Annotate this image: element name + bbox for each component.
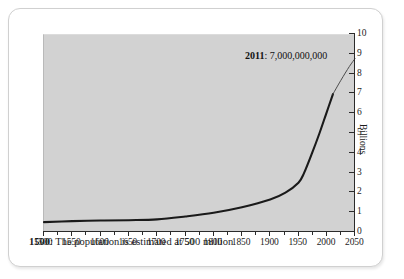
y-tick-2 bbox=[349, 191, 354, 192]
y-tick-4 bbox=[349, 152, 354, 153]
caption-text: The population is estimated at 500 milli… bbox=[55, 236, 233, 247]
x-tick-1850 bbox=[241, 231, 242, 236]
x-tick-label-1900: 1900 bbox=[260, 237, 279, 247]
y-tick-6 bbox=[349, 112, 354, 113]
population-line bbox=[44, 94, 333, 222]
y-tick-label-10: 10 bbox=[357, 28, 367, 38]
x-tick-2050 bbox=[354, 231, 355, 236]
x-tick-label-1850: 1850 bbox=[232, 237, 251, 247]
figure-card: 1500 1550 1600 1650 1700 1750 1800 1850 … bbox=[8, 8, 383, 267]
y-tick-9 bbox=[349, 53, 354, 54]
y-tick-label-7: 7 bbox=[357, 87, 362, 97]
y-tick-label-2: 2 bbox=[357, 186, 362, 196]
y-tick-label-1: 1 bbox=[357, 206, 362, 216]
y-tick-0 bbox=[349, 231, 354, 232]
y-tick-10 bbox=[349, 33, 354, 34]
x-tick-1625 bbox=[114, 231, 115, 235]
x-tick-1875 bbox=[255, 231, 256, 235]
annotation-value: 7,000,000,000 bbox=[270, 50, 328, 61]
x-tick-label-1950: 1950 bbox=[288, 237, 307, 247]
y-axis-title: Billions bbox=[358, 124, 368, 154]
x-tick-1975 bbox=[312, 231, 313, 235]
chart-caption: 1500: The population is estimated at 500… bbox=[29, 236, 233, 247]
plot-region bbox=[43, 34, 354, 231]
annotation-year: 2011 bbox=[245, 50, 264, 61]
x-tick-1725 bbox=[170, 231, 171, 235]
x-tick-1675 bbox=[142, 231, 143, 235]
y-tick-label-8: 8 bbox=[357, 68, 362, 78]
x-tick-1925 bbox=[284, 231, 285, 235]
x-tick-1525 bbox=[57, 231, 58, 235]
y-tick-8 bbox=[349, 73, 354, 74]
population-line-projection bbox=[333, 59, 355, 94]
x-tick-1575 bbox=[85, 231, 86, 235]
x-tick-1950 bbox=[298, 231, 299, 236]
x-tick-2000 bbox=[326, 231, 327, 236]
population-curve-svg bbox=[44, 35, 355, 232]
y-tick-5 bbox=[349, 132, 354, 133]
population-growth-chart: 1500 1550 1600 1650 1700 1750 1800 1850 … bbox=[35, 26, 376, 252]
y-tick-label-6: 6 bbox=[357, 107, 362, 117]
x-tick-1900 bbox=[269, 231, 270, 236]
x-tick-1825 bbox=[227, 231, 228, 235]
x-tick-2025 bbox=[340, 231, 341, 235]
caption-year: 1500 bbox=[29, 236, 50, 247]
y-tick-label-3: 3 bbox=[357, 167, 362, 177]
y-tick-7 bbox=[349, 92, 354, 93]
x-tick-1775 bbox=[199, 231, 200, 235]
y-tick-1 bbox=[349, 211, 354, 212]
y-tick-3 bbox=[349, 172, 354, 173]
x-tick-label-2000: 2000 bbox=[317, 237, 336, 247]
y-tick-label-9: 9 bbox=[357, 48, 362, 58]
x-tick-label-2050: 2050 bbox=[345, 237, 364, 247]
y-tick-label-0: 0 bbox=[357, 226, 362, 236]
chart-annotation-2011: 2011: 7,000,000,000 bbox=[245, 50, 327, 61]
y-axis-line bbox=[354, 33, 355, 232]
